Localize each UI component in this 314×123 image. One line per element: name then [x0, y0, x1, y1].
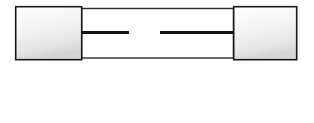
fuse-illustration-svg [0, 0, 314, 123]
left-end-cap [16, 7, 82, 60]
right-end-cap [234, 7, 297, 60]
left-end-cap-body [16, 7, 82, 60]
filament-break-gap [129, 30, 160, 35]
fuse-diagram: Cross-section line drawing of a glass ca… [0, 0, 314, 123]
right-end-cap-body [234, 7, 297, 60]
filament-break-gap-area [129, 30, 160, 35]
